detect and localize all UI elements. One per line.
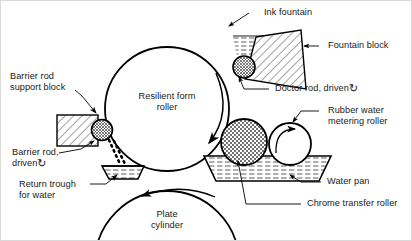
- label-barrier-rod-support-block-line2: support block: [10, 82, 65, 93]
- label-plate-cylinder-line1: Plate: [127, 209, 207, 220]
- label-barrier-rod-driven-line2-wrap: driven↻: [12, 158, 47, 169]
- chrome-transfer-roller-part: [221, 119, 267, 165]
- water-pan-part: [204, 156, 331, 181]
- doctor-rod-part: [233, 56, 255, 78]
- leader-ink-fountain: [229, 13, 249, 26]
- label-rubber-water-metering-roller-line1: Rubber water: [328, 105, 384, 116]
- label-barrier-rod-support-block-line1: Barrier rod: [10, 71, 54, 82]
- label-ink-fountain: Ink fountain: [264, 7, 312, 18]
- label-doctor-rod-wrap: Doctor rod, driven↻: [275, 83, 358, 94]
- label-barrier-rod-driven-line1: Barrier rod,: [12, 147, 59, 158]
- label-doctor-rod: Doctor rod, driven: [275, 83, 349, 93]
- rotation-cw-icon-2: ↻: [37, 157, 46, 170]
- barrier-rod-part: [92, 120, 113, 141]
- label-resilient-form-roller-line2: roller: [122, 102, 212, 113]
- label-return-trough-line2: for water: [19, 190, 55, 201]
- label-rubber-water-metering-roller-line2: metering roller: [328, 116, 387, 127]
- label-resilient-form-roller-line1: Resilient form: [122, 91, 212, 102]
- label-plate-cylinder-line2: cylinder: [127, 220, 207, 231]
- rubber-water-metering-roller-part: [269, 123, 311, 165]
- leader-rubber-water-metering-roller: [293, 111, 319, 122]
- label-chrome-transfer-roller: Chrome transfer roller: [307, 198, 397, 209]
- label-return-trough-line1: Return trough: [19, 179, 76, 190]
- rotation-cw-icon: ↻: [349, 82, 358, 95]
- leader-barrier-rod-support-block: [75, 90, 96, 113]
- return-trough-part: [102, 166, 144, 179]
- label-water-pan: Water pan: [327, 176, 370, 187]
- label-barrier-rod-driven-line2: driven: [12, 158, 37, 168]
- label-fountain-block: Fountain block: [328, 40, 388, 51]
- printing-press-diagram: Ink fountain Fountain block Doctor rod, …: [0, 0, 412, 241]
